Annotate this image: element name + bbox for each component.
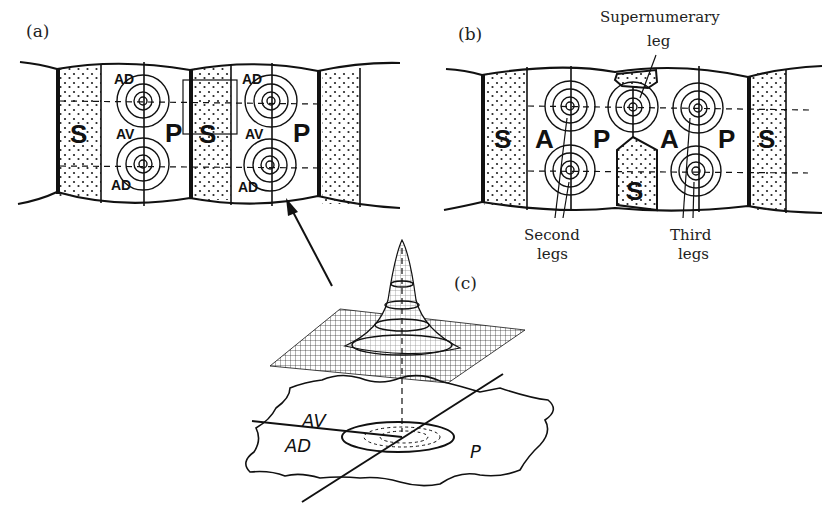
region-label-s: S [758, 124, 775, 154]
region-label-av: AV [116, 126, 135, 142]
region-label-s: S [70, 119, 87, 149]
s-region-fill [322, 70, 360, 204]
annotation-supernumerary-leg: leg [647, 32, 671, 50]
region-label-s: S [199, 119, 216, 149]
region-label-ad: AD [111, 177, 131, 193]
figure-canvas: (a) [0, 0, 835, 519]
panel-b: (b) [444, 8, 822, 263]
region-label-p: P [165, 118, 182, 148]
plane-label-ad: AD [284, 435, 311, 456]
region-label-p: P [718, 124, 735, 154]
annotation-second: Second [524, 226, 580, 244]
panel-c-label: (c) [454, 273, 477, 293]
region-label-a: A [660, 124, 679, 154]
region-label-s: S [626, 176, 643, 206]
panel-c: (c) AV AD P [246, 240, 554, 502]
annotation-third-legs: legs [678, 245, 709, 263]
annotation-second-legs: legs [537, 245, 568, 263]
annotation-supernumerary: Supernumerary [600, 8, 720, 26]
annotation-third: Third [670, 226, 712, 244]
region-label-ad: AD [242, 71, 262, 87]
region-label-a: A [535, 124, 554, 154]
panel-a-label: (a) [26, 21, 49, 41]
plane-label-p: P [470, 441, 481, 462]
region-label-s: S [494, 124, 511, 154]
region-label-p: P [293, 118, 310, 148]
wavy-plane [246, 375, 554, 485]
region-label-ad: AD [238, 179, 258, 195]
panel-a: (a) [18, 21, 400, 208]
arrow-c-to-a [286, 198, 332, 286]
region-label-ad: AD [114, 71, 134, 87]
region-label-av: AV [245, 126, 264, 142]
plane-label-av: AV [301, 410, 327, 431]
panel-b-label: (b) [458, 24, 482, 44]
region-label-p: P [593, 124, 610, 154]
